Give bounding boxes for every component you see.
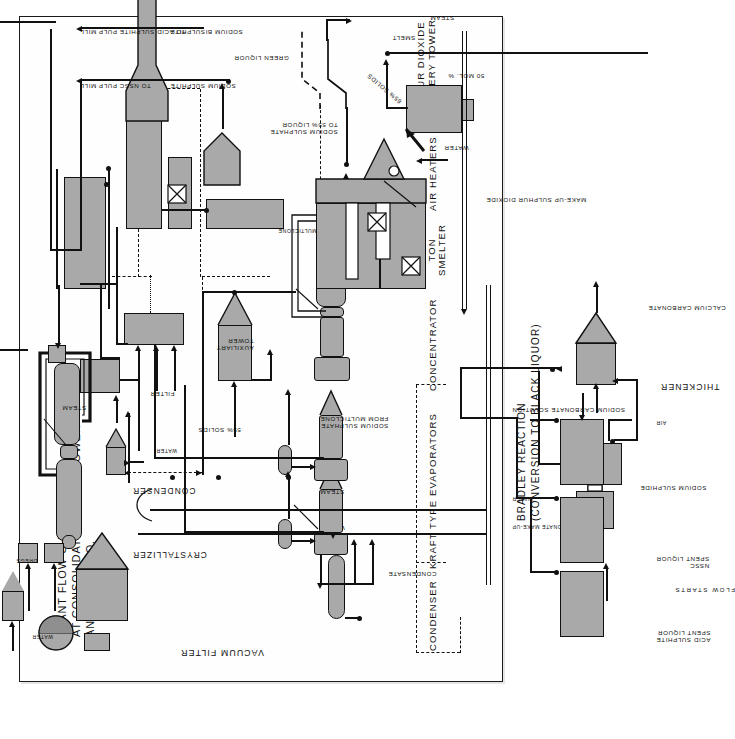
green-liquor-riser bbox=[386, 107, 408, 109]
condenser-water-line-low bbox=[372, 545, 374, 585]
flow-starts-arrow bbox=[603, 563, 609, 569]
product-header-link bbox=[50, 249, 82, 251]
thickener-overflow-v bbox=[616, 379, 638, 381]
label-bradley-reaction: BRADLEY REACTION bbox=[516, 402, 527, 521]
green-liquor-main bbox=[386, 52, 648, 54]
thickener-recycle-v bbox=[614, 439, 638, 441]
aux-tower-dashed-riser bbox=[112, 276, 152, 277]
vacuum-water-arrow bbox=[9, 621, 15, 627]
sodium-sulphide-feed bbox=[582, 393, 584, 415]
crystallizer-steam-leader bbox=[38, 389, 72, 459]
dashed-liquor-arrow-down bbox=[196, 470, 202, 476]
vacuum-filter-receiver bbox=[84, 633, 110, 651]
makeup-so2-rail-a bbox=[462, 31, 463, 309]
feed-header-2-riser bbox=[516, 497, 532, 499]
thickener-underflow-arrow bbox=[593, 281, 599, 287]
bradley-inlet-riser bbox=[460, 367, 560, 369]
aux-tower-gas-line bbox=[108, 167, 110, 309]
evaporator-group-outline-mid bbox=[416, 562, 446, 563]
label-thickener: THICKENER bbox=[660, 381, 720, 391]
thickener-recycle-node bbox=[610, 439, 615, 444]
section-label-kraft-evaporators: KRAFT TYPE EVAPORATORS bbox=[428, 413, 439, 569]
solids-55-riser bbox=[202, 291, 236, 293]
vacuum-filter-out-1 bbox=[54, 567, 56, 611]
vacuum-filter-out-arrow-1 bbox=[51, 563, 57, 569]
bradley-air-line bbox=[608, 419, 610, 441]
crystallizer-discharge-arrow bbox=[55, 343, 61, 349]
evaporator-group-outline-right bbox=[416, 384, 446, 385]
label-sodium-sulphide: SODIUM SULPHIDE bbox=[640, 484, 706, 491]
acid-tank-riser bbox=[530, 571, 558, 573]
evap-vapour-node bbox=[286, 475, 291, 480]
sodium-sulphate-feed-arrow bbox=[231, 381, 237, 387]
condenser-2-hopper bbox=[106, 447, 126, 475]
sodium-carbonate-branch-v bbox=[150, 509, 486, 511]
aux-tower-top-line bbox=[116, 227, 118, 345]
thickener-overflow-h bbox=[636, 381, 638, 441]
label-vacuum-filter: VACUUM FILTER bbox=[180, 647, 264, 657]
makeup-so2-rail-b bbox=[466, 31, 467, 309]
auxiliary-tower-body bbox=[124, 313, 184, 345]
flow-starts-line bbox=[606, 567, 608, 601]
feed-header-to-bradley bbox=[460, 417, 518, 419]
vacuum-filter-tank-cone bbox=[76, 521, 132, 621]
absorber-to-product bbox=[80, 283, 116, 285]
dashed-sulphate-h bbox=[200, 89, 201, 277]
evap2-vapour-arrow bbox=[285, 389, 291, 395]
label-condensate: CONDENSATE bbox=[388, 570, 437, 577]
bradley-feed-h bbox=[538, 371, 540, 465]
feed-header-1 bbox=[530, 497, 532, 573]
label-water-vacuum: WATER bbox=[32, 633, 53, 639]
sodium-sulphide-feed-arrow bbox=[579, 415, 585, 421]
nssc-tank bbox=[560, 497, 604, 563]
green-liquor-arrow bbox=[383, 59, 389, 65]
label-crystallizer: CRYSTALLIZER bbox=[132, 550, 207, 559]
vacuum-filter-out-2 bbox=[28, 567, 30, 611]
dregs-washer bbox=[2, 591, 24, 621]
carbonate-to-filter bbox=[128, 413, 130, 483]
sodium-sulphate-mix-tank bbox=[218, 325, 252, 381]
carbonate-to-filter-arrow bbox=[125, 411, 131, 417]
label-acid-sulphite-spent-liquor: ACID SULPHITE SPENT LIQUOR bbox=[656, 629, 711, 643]
evaporator-1-steam-leader bbox=[288, 491, 324, 531]
so2-tower-down bbox=[162, 209, 208, 211]
aux-tower-in-2 bbox=[156, 349, 158, 391]
sodium-carbonate-rail-b bbox=[490, 285, 491, 585]
condenser-water-line-mid bbox=[354, 545, 356, 585]
feed-header-2 bbox=[516, 419, 518, 499]
mix-tank-recycle-up bbox=[252, 379, 272, 381]
condenser-vessel bbox=[328, 555, 345, 619]
evap2-to-conc-vapour bbox=[288, 393, 290, 445]
vacuum-filter-drum bbox=[34, 599, 80, 659]
filter-out-h bbox=[138, 381, 140, 451]
dashed-return-jog bbox=[296, 29, 326, 109]
label-auxiliary-tower: AUXILIARY TOWER bbox=[216, 337, 254, 351]
vacuum-filter-box-1 bbox=[44, 543, 64, 563]
aux-tower-top-riser bbox=[116, 343, 128, 345]
nssc-tank-riser bbox=[530, 497, 558, 499]
liquor-node-1 bbox=[216, 475, 221, 480]
water-branch-v bbox=[138, 533, 486, 535]
so2-recovery-tower-taper bbox=[116, 0, 176, 121]
aux-tower-dotted bbox=[150, 275, 151, 313]
condenser-group-outline-bottom bbox=[460, 617, 461, 653]
bradley-air-riser bbox=[608, 419, 632, 421]
label-sodium-sulphate-from-multiclone: SODIUM SULPHATE FROM MULTICLONE bbox=[320, 415, 388, 429]
dissolving-tank-outlet bbox=[462, 99, 474, 121]
label-steam-crystallizer: STEAM bbox=[62, 404, 86, 411]
label-55-percent-solids: 55% SOLIDS bbox=[198, 426, 241, 433]
product-header-2 bbox=[50, 29, 52, 251]
label-steam-evap-1: STEAM bbox=[320, 488, 344, 495]
filter-to-absorber bbox=[100, 283, 102, 359]
label-green-liquor: GREEN LIQUOR bbox=[234, 54, 289, 61]
absorber-node bbox=[104, 182, 109, 187]
evaporator-2-cone-outline bbox=[314, 389, 354, 481]
liquor-feed-riser-2 bbox=[154, 457, 324, 459]
dashed-liquor-riser bbox=[202, 276, 270, 277]
thickener-feed-arrow bbox=[593, 383, 599, 389]
smelt-spout bbox=[372, 121, 426, 181]
green-liquor-top bbox=[386, 63, 388, 109]
crystallizer-discharge bbox=[58, 285, 60, 343]
aux-tower-in-arrow-2 bbox=[153, 345, 159, 351]
